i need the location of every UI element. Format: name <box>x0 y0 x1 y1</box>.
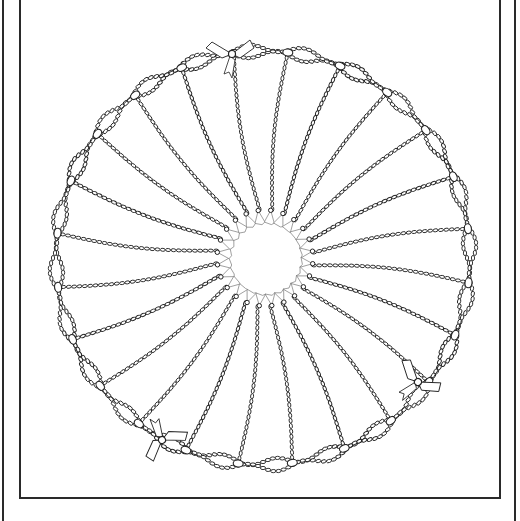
ring-knots <box>53 48 472 467</box>
ribbon-bow <box>131 406 192 463</box>
central-hub-ribbons <box>215 208 315 308</box>
beaded-wreath-illustration <box>0 0 520 521</box>
beaded-ring <box>48 43 478 473</box>
beaded-spokes <box>60 55 466 461</box>
